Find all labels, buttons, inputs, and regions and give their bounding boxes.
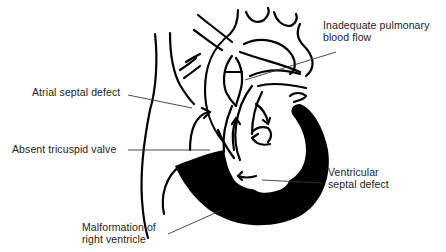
label-ventricular-septal-defect: Ventricular septal defect (328, 166, 389, 190)
leader-line-pulmonary (245, 52, 336, 80)
label-malformation-right-ventricle: Malformation of right ventricle (82, 221, 156, 245)
heart-diagram: Inadequate pulmonary blood flow Atrial s… (0, 0, 446, 252)
label-absent-tricuspid-valve: Absent tricuspid valve (12, 143, 116, 155)
aorta-right-wall (298, 24, 313, 76)
label-atrial-septal-defect: Atrial septal defect (32, 86, 120, 98)
label-inadequate-pulmonary-blood-flow: Inadequate pulmonary blood flow (323, 19, 430, 43)
vena-cava-outer-wall (141, 34, 156, 238)
leader-line-asd (128, 95, 192, 108)
leader-line-rv (168, 210, 222, 234)
